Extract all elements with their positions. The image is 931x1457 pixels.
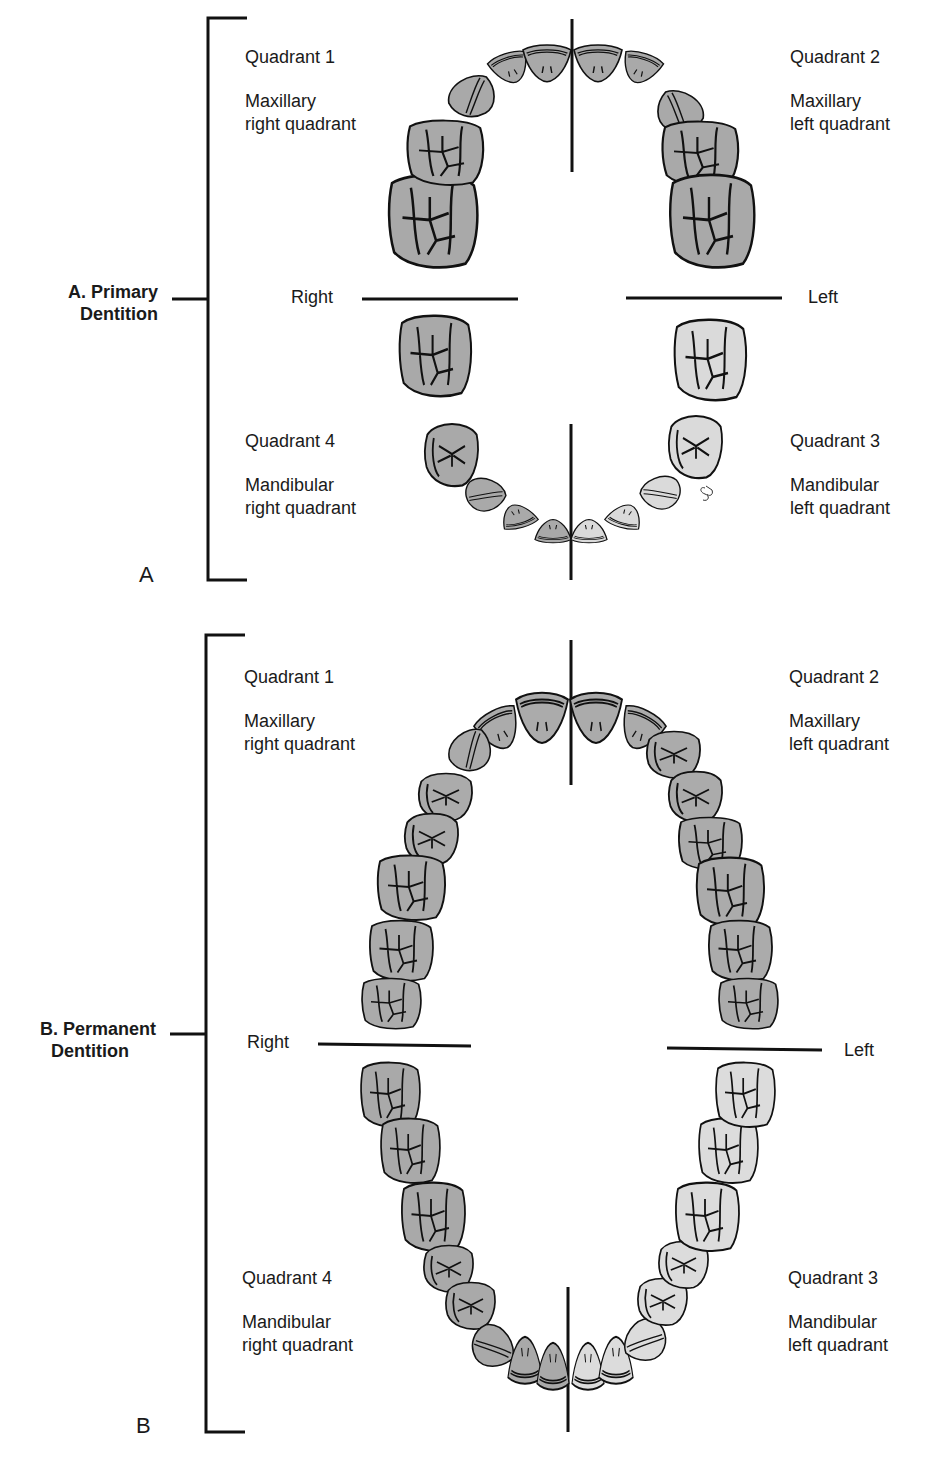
- panel-b-bracket: [170, 635, 245, 1432]
- quadrant-desc-line1: Mandibular: [788, 1311, 888, 1334]
- quadrant-desc-line1: Mandibular: [245, 474, 356, 497]
- panel-b-section-title: B. Permanent Dentition: [14, 1018, 156, 1062]
- panel-a-letter: A: [139, 562, 154, 588]
- panel-a-title-line1: A. Primary: [30, 281, 158, 303]
- quadrant-desc-line2: right quadrant: [242, 1334, 353, 1357]
- quadrant-desc-line1: Maxillary: [789, 710, 889, 733]
- panel-b-quadrant-2-label: Quadrant 2 Maxillary left quadrant: [789, 666, 889, 756]
- panel-a-section-title: A. Primary Dentition: [30, 281, 158, 325]
- panel-a-left-label: Left: [808, 286, 838, 309]
- panel-b-title-line1: B. Permanent: [14, 1018, 156, 1040]
- panel-a-quadrant-2-teeth: [574, 45, 754, 267]
- panel-a-quadrant-3-label: Quadrant 3 Mandibular left quadrant: [790, 430, 890, 520]
- quadrant-desc-line1: Mandibular: [790, 474, 890, 497]
- panel-a-bracket: [172, 18, 247, 580]
- quadrant-desc-line2: left quadrant: [790, 113, 890, 136]
- quadrant-name: Quadrant 4: [242, 1267, 353, 1290]
- quadrant-desc-line1: Mandibular: [242, 1311, 353, 1334]
- panel-b-midline: [568, 640, 571, 1432]
- quadrant-desc-line2: left quadrant: [790, 497, 890, 520]
- panel-a-quadrant-4-teeth: [400, 316, 571, 543]
- quadrant-name: Quadrant 1: [244, 666, 355, 689]
- panel-b-letter: B: [136, 1413, 151, 1439]
- quadrant-desc-line2: right quadrant: [245, 113, 356, 136]
- panel-b-quadrant-4-teeth: [361, 1063, 569, 1390]
- panel-a-occlusal-lines: [362, 298, 782, 299]
- panel-b-quadrant-3-teeth: [572, 1063, 775, 1390]
- panel-a-quadrant-1-label: Quadrant 1 Maxillary right quadrant: [245, 46, 356, 136]
- quadrant-desc-line2: right quadrant: [245, 497, 356, 520]
- quadrant-name: Quadrant 2: [790, 46, 890, 69]
- quadrant-desc-line2: left quadrant: [788, 1334, 888, 1357]
- panel-b-quadrant-3-label: Quadrant 3 Mandibular left quadrant: [788, 1267, 888, 1357]
- panel-a-quadrant-4-label: Quadrant 4 Mandibular right quadrant: [245, 430, 356, 520]
- artist-signature: [701, 486, 713, 500]
- panel-b-occlusal-lines: [318, 1044, 822, 1050]
- quadrant-desc-line1: Maxillary: [790, 90, 890, 113]
- panel-a-quadrant-1-teeth: [389, 45, 571, 267]
- panel-a-quadrant-3-teeth: [571, 320, 746, 543]
- panel-a-right-label: Right: [291, 286, 333, 309]
- panel-b-quadrant-1-label: Quadrant 1 Maxillary right quadrant: [244, 666, 355, 756]
- panel-b-quadrant-1-teeth: [362, 693, 568, 1029]
- quadrant-desc-line1: Maxillary: [244, 710, 355, 733]
- panel-a-title-line2: Dentition: [30, 303, 158, 325]
- quadrant-name: Quadrant 4: [245, 430, 356, 453]
- panel-b-left-label: Left: [844, 1039, 874, 1062]
- quadrant-name: Quadrant 2: [789, 666, 889, 689]
- panel-a-midline: [571, 19, 572, 580]
- quadrant-desc-line1: Maxillary: [245, 90, 356, 113]
- quadrant-name: Quadrant 3: [790, 430, 890, 453]
- panel-b-right-label: Right: [247, 1031, 289, 1054]
- panel-b-title-line2: Dentition: [14, 1040, 156, 1062]
- panel-b-quadrant-4-label: Quadrant 4 Mandibular right quadrant: [242, 1267, 353, 1357]
- quadrant-name: Quadrant 3: [788, 1267, 888, 1290]
- quadrant-desc-line2: right quadrant: [244, 733, 355, 756]
- quadrant-desc-line2: left quadrant: [789, 733, 889, 756]
- panel-b-quadrant-2-teeth: [570, 693, 778, 1029]
- quadrant-name: Quadrant 1: [245, 46, 356, 69]
- panel-a-quadrant-2-label: Quadrant 2 Maxillary left quadrant: [790, 46, 890, 136]
